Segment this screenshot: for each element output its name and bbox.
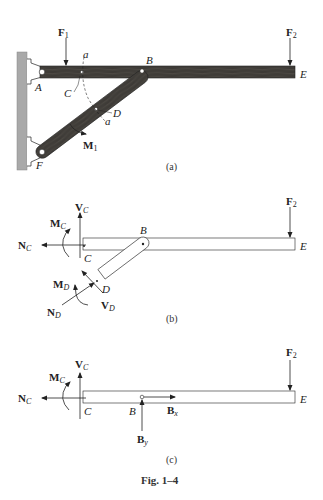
label-nd: ND: [47, 306, 61, 320]
moment-mc-arrow: [63, 229, 70, 257]
label-point-e-b: E: [299, 240, 307, 252]
label-point-d-b: D: [101, 283, 110, 295]
leader-c: [74, 76, 80, 92]
label-point-c-c: C: [84, 405, 92, 417]
moment-mc-arrow-c: [63, 382, 70, 410]
label-point-c: C: [64, 87, 72, 99]
label-f2-b: F2: [286, 195, 297, 209]
label-nc: NC: [18, 239, 32, 253]
point-d-b: [96, 280, 98, 282]
label-vd: VD: [101, 299, 115, 313]
pin-b-b: [142, 243, 144, 245]
label-point-b-b: B: [140, 224, 147, 236]
label-vc-c: VC: [75, 358, 89, 372]
force-vd-arrow: [82, 271, 103, 293]
pin-a: [39, 69, 45, 75]
point-c: [80, 70, 83, 73]
panel-b: NC VC MC MD ND VD F2 B C D E (b): [18, 195, 307, 325]
label-by: By: [137, 433, 148, 447]
label-section-a-bottom: a: [105, 115, 111, 127]
caption-b: (b): [166, 313, 178, 325]
label-point-c-b: C: [84, 252, 92, 264]
panel-c: NC VC MC Bx By F2 C B E (c): [18, 346, 307, 466]
label-mc: MC: [50, 217, 66, 231]
label-point-e: E: [299, 68, 307, 80]
beam-ce: [83, 238, 295, 250]
figure-1-4: F1 F2 M1 a a A B C D E F (a): [0, 0, 323, 500]
label-nc-c: NC: [18, 392, 32, 406]
label-point-b: B: [146, 54, 153, 66]
label-m1: M1: [83, 139, 97, 153]
label-bx: Bx: [167, 404, 178, 418]
label-f1: F1: [58, 26, 69, 40]
beam-ae: [40, 66, 295, 78]
beam-ce-c: [83, 391, 295, 403]
label-mc-c: MC: [49, 371, 65, 385]
panel-a: F1 F2 M1 a a A B C D E F (a): [17, 26, 307, 173]
pin-b: [140, 69, 143, 72]
label-point-f: F: [35, 159, 43, 171]
figure-caption: Fig. 1–4: [141, 474, 179, 486]
pin-b-c: [140, 395, 144, 399]
label-f2-c: F2: [286, 346, 297, 360]
caption-c: (c): [166, 454, 177, 466]
label-point-d: D: [112, 107, 121, 119]
label-point-a: A: [34, 81, 42, 93]
label-md: MD: [53, 278, 69, 292]
wall: [17, 52, 27, 170]
label-point-e-c: E: [299, 393, 307, 405]
caption-a: (a): [166, 161, 177, 173]
label-point-b-c: B: [129, 405, 136, 417]
label-vc: VC: [75, 201, 89, 215]
label-section-a-top: a: [83, 48, 89, 60]
pin-f: [39, 149, 45, 155]
label-f2: F2: [286, 26, 297, 40]
